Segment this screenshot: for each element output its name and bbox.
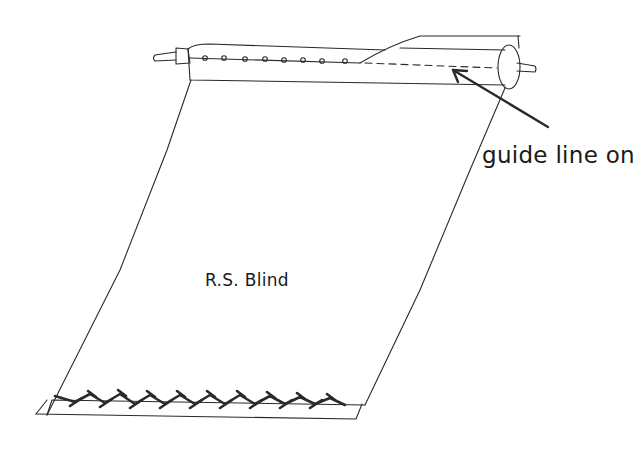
left-pin — [154, 48, 191, 64]
roller-blind-drawing — [0, 0, 634, 450]
dashed-guide-line — [365, 63, 497, 68]
diagram-canvas: guide line on R.S. Blind — [0, 0, 634, 450]
blind-fabric — [47, 80, 505, 415]
guide-line-label: guide line on — [482, 142, 634, 168]
arrow-icon — [453, 70, 548, 127]
blind-label: R.S. Blind — [205, 270, 289, 290]
zigzag-stitching — [55, 390, 345, 408]
